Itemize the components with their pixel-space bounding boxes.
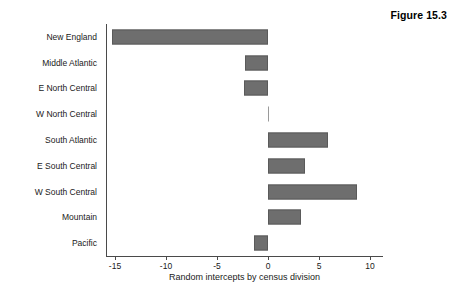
figure-page: Figure 15.3 -15-10-50510 New EnglandMidd… xyxy=(0,0,455,304)
x-axis-tick xyxy=(217,256,218,260)
bar xyxy=(254,236,268,251)
bar xyxy=(112,29,268,44)
y-axis-category-label: Middle Atlantic xyxy=(42,58,97,68)
x-axis-tick-label: 10 xyxy=(365,261,374,271)
y-axis-category-label: E South Central xyxy=(37,161,97,171)
x-axis-tick xyxy=(319,256,320,260)
bar xyxy=(245,55,268,70)
bar xyxy=(268,107,269,122)
x-axis-tick xyxy=(268,256,269,260)
x-axis-tick xyxy=(166,256,167,260)
bar xyxy=(244,81,268,96)
bar xyxy=(268,158,305,173)
y-axis-line xyxy=(106,24,107,257)
x-axis-tick-label: 5 xyxy=(317,261,322,271)
x-axis-tick xyxy=(370,256,371,260)
y-axis-category-label: E North Central xyxy=(38,83,97,93)
x-axis-tick-label: -5 xyxy=(213,261,221,271)
y-axis-category-label: New England xyxy=(46,32,97,42)
x-axis-tick xyxy=(115,256,116,260)
y-axis-category-label: Mountain xyxy=(62,212,97,222)
x-axis-tick-label: -10 xyxy=(160,261,172,271)
bar xyxy=(268,133,328,148)
y-axis-category-label: Pacific xyxy=(72,238,97,248)
x-axis-line xyxy=(106,256,383,257)
y-axis-category-label: W North Central xyxy=(36,109,97,119)
y-axis-category-label: South Atlantic xyxy=(45,135,97,145)
bar-chart: -15-10-50510 New EnglandMiddle AtlanticE… xyxy=(0,0,455,304)
y-axis-category-label: W South Central xyxy=(35,187,97,197)
x-axis-title: Random intercepts by census division xyxy=(106,272,383,282)
bar xyxy=(268,210,301,225)
x-axis-tick-label: 0 xyxy=(266,261,271,271)
x-axis-tick-label: -15 xyxy=(109,261,121,271)
bar xyxy=(268,184,357,199)
